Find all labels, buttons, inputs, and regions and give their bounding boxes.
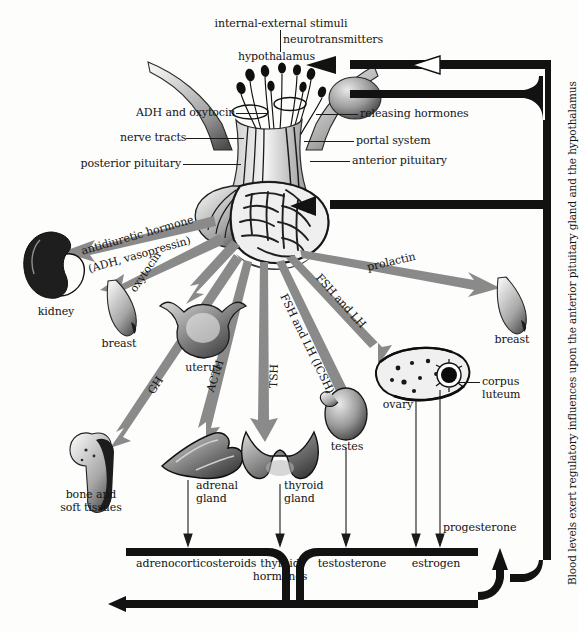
ovary-art [376,348,469,400]
leader-nerve-tracts [186,138,244,139]
leader-anterior-pituitary [310,161,350,162]
label-kidney: kidney [18,306,94,319]
label-portal-system: portal system [356,135,430,148]
label-uterus: uterus [168,362,238,375]
label-neurotransmitters: neurotransmitters [283,34,383,47]
label-testes: testes [318,441,376,454]
leader-portal-system [304,141,354,142]
secretion-arrows [184,390,444,546]
label-fsh-lh: FSH and LH [313,272,368,331]
leader-posterior-pituitary [183,164,241,165]
label-internal-external-stimuli: internal-external stimuli [188,18,374,31]
kidney-art [24,232,85,298]
label-adrenocorticosteroids: adrenocorticosteroids [136,558,256,571]
label-ovary: ovary [370,399,426,412]
leader-releasing-hormones [316,114,358,115]
leader-adh [236,113,268,114]
adrenal-gland-art [162,433,243,478]
label-prolactin: prolactin [366,251,417,274]
label-adh-and-oxytocin: ADH and oxytocin [136,107,234,120]
breast-right-art [497,277,526,334]
pituitary-stalk-art [232,98,306,194]
label-thyroid-hormones-line2: hormones [248,571,312,584]
label-releasing-hormones: releasing hormones [360,108,469,121]
diagram-canvas: internal-external stimuli neurotransmitt… [0,0,579,632]
label-corpus-line1: corpus [482,376,519,389]
label-feedback-caption: Blood levels exert regulatory influences… [566,65,579,585]
label-thyroid-line1: thyroid [284,480,323,493]
label-nerve-tracts: nerve tracts [120,132,184,145]
label-hypothalamus: hypothalamus [238,51,315,64]
label-thyroid-hormones-line1: thyroid [248,558,312,571]
label-adrenal-line2: gland [196,493,227,506]
label-adrenal-line1: adrenal [196,480,238,493]
label-fsh-lh-icsh: FSH and LH (ICSH) [277,292,336,396]
thyroid-gland-art [242,432,319,478]
pituitary-gland-art [195,182,328,270]
label-bone-line2: soft tissues [46,502,136,515]
label-posterior-pituitary: posterior pituitary [74,158,181,171]
label-bone-line1: bone and [46,489,136,502]
label-breast-left: breast [84,338,154,351]
uterus-art [160,302,246,358]
label-anterior-pituitary: anterior pituitary [352,155,447,168]
label-tsh: TSH [268,364,281,389]
label-breast-right: breast [476,334,548,347]
label-testosterone: testosterone [312,558,392,571]
label-thyroid-line2: gland [284,493,315,506]
leader-corpus-luteum [458,382,480,383]
label-corpus-line2: luteum [482,389,520,402]
label-estrogen: estrogen [404,558,468,571]
leader-stimuli [280,30,281,52]
testes-art [320,388,367,440]
label-gh: GH [146,375,167,397]
label-progesterone: progesterone [443,522,516,535]
